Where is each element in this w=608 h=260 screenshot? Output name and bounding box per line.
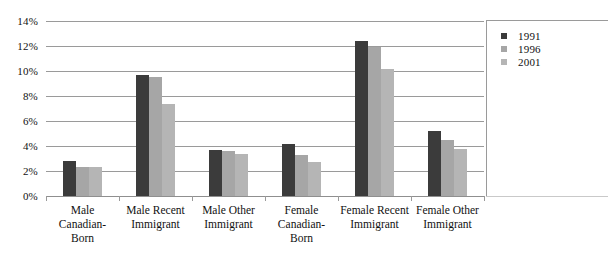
x-axis-tick	[192, 196, 193, 201]
bar[interactable]	[282, 144, 295, 197]
bar-group	[192, 21, 265, 196]
legend-bottom-rule	[486, 196, 608, 197]
bar-group	[265, 21, 338, 196]
legend-item[interactable]: 1991	[501, 29, 541, 42]
bar-chart: 0%2%4%6%8%10%12%14% MaleCanadian-BornMal…	[0, 0, 608, 260]
x-axis-category-label-line: Born	[38, 231, 127, 245]
x-axis-tick	[119, 196, 120, 201]
bar[interactable]	[428, 131, 441, 196]
bar[interactable]	[381, 69, 394, 197]
x-axis-category-label-line: Born	[257, 231, 346, 245]
legend-item[interactable]: 2001	[501, 55, 541, 68]
bar[interactable]	[89, 167, 102, 196]
y-axis-tick-label: 6%	[23, 115, 38, 127]
legend-panel: 199119962001	[486, 0, 608, 260]
bar[interactable]	[209, 150, 222, 196]
bar[interactable]	[222, 151, 235, 196]
bar[interactable]	[149, 77, 162, 196]
legend-label: 1996	[518, 43, 541, 55]
y-axis-tick-label: 12%	[17, 40, 38, 52]
bar[interactable]	[454, 149, 467, 197]
x-axis-tick	[46, 196, 47, 201]
bar-group	[119, 21, 192, 196]
x-axis-tick	[484, 196, 485, 201]
bar-group	[338, 21, 411, 196]
y-axis-tick-label: 0%	[23, 190, 38, 202]
bar[interactable]	[441, 140, 454, 196]
y-axis-tick-label: 4%	[23, 140, 38, 152]
plot-area	[46, 21, 484, 196]
y-axis-tick-label: 2%	[23, 165, 38, 177]
bar[interactable]	[355, 41, 368, 196]
bar[interactable]	[295, 155, 308, 196]
bars-layer	[46, 21, 484, 196]
legend-divider	[486, 20, 487, 196]
x-axis-category-label-line: Female Other	[403, 203, 492, 217]
bar[interactable]	[368, 47, 381, 196]
bar[interactable]	[63, 161, 76, 196]
legend-items: 199119962001	[501, 29, 541, 68]
x-axis-category-labels: MaleCanadian-BornMale RecentImmigrantMal…	[46, 203, 484, 258]
bar-group	[46, 21, 119, 196]
y-axis-tick-label: 14%	[17, 15, 38, 27]
legend-label: 2001	[518, 56, 541, 68]
legend-swatch-icon	[501, 33, 507, 39]
legend-top-rule	[486, 20, 608, 21]
bar[interactable]	[235, 154, 248, 197]
x-axis-tick	[265, 196, 266, 201]
legend-swatch-icon	[501, 46, 507, 52]
y-axis-tick-label: 8%	[23, 90, 38, 102]
y-axis-tick-label: 10%	[17, 65, 38, 77]
x-axis-tick	[411, 196, 412, 201]
y-axis-tick-labels: 0%2%4%6%8%10%12%14%	[0, 0, 44, 196]
bar[interactable]	[136, 75, 149, 196]
bar[interactable]	[162, 104, 175, 197]
legend-swatch-icon	[501, 59, 507, 65]
x-axis-category-label-line: Immigrant	[403, 217, 492, 231]
bar[interactable]	[76, 167, 89, 196]
plot-wrapper: 0%2%4%6%8%10%12%14% MaleCanadian-BornMal…	[0, 0, 486, 260]
bar-group	[411, 21, 484, 196]
legend-label: 1991	[518, 30, 541, 42]
bar[interactable]	[308, 162, 321, 196]
x-axis-tick	[338, 196, 339, 201]
legend-item[interactable]: 1996	[501, 42, 541, 55]
x-axis-category-label: Female OtherImmigrant	[403, 203, 492, 231]
